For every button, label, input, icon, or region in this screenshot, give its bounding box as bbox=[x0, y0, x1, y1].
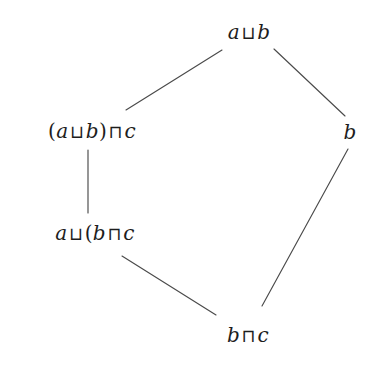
lattice-edge bbox=[126, 50, 222, 110]
node-token-var: b bbox=[343, 120, 356, 144]
node-token-var: c bbox=[257, 323, 269, 347]
node-token-paren: ( bbox=[48, 119, 56, 143]
node-token-paren: ( bbox=[85, 221, 93, 245]
node-token-var: c bbox=[124, 119, 136, 143]
lattice-node-meet-join-ab-c: (a⊔b)⊓c bbox=[48, 121, 136, 141]
lattice-node-join-ab: a⊔b bbox=[228, 22, 271, 42]
node-token-var: b bbox=[257, 20, 270, 44]
node-token-var: a bbox=[55, 221, 67, 245]
node-token-op: ⊔ bbox=[67, 223, 84, 244]
lattice-node-node-b: b bbox=[343, 122, 356, 142]
node-token-op: ⊔ bbox=[240, 22, 257, 43]
node-token-var: a bbox=[228, 20, 240, 44]
node-token-var: c bbox=[123, 221, 135, 245]
lattice-node-join-a-meet-bc: a⊔(b⊓c bbox=[55, 223, 135, 243]
node-token-op: ⊓ bbox=[240, 325, 257, 346]
node-token-var: b bbox=[93, 221, 106, 245]
lattice-edge bbox=[122, 256, 216, 315]
node-token-var: b bbox=[86, 119, 99, 143]
node-token-paren: ) bbox=[99, 119, 107, 143]
node-token-op: ⊓ bbox=[107, 121, 124, 142]
lattice-diagram: a⊔b(a⊔b)⊓cba⊔(b⊓cb⊓c bbox=[0, 0, 378, 365]
node-token-op: ⊔ bbox=[68, 121, 85, 142]
node-token-var: a bbox=[56, 119, 68, 143]
lattice-edge bbox=[274, 49, 345, 116]
node-token-op: ⊓ bbox=[106, 223, 123, 244]
lattice-node-meet-bc: b⊓c bbox=[227, 325, 269, 345]
edge-layer bbox=[0, 0, 378, 365]
lattice-edge bbox=[262, 149, 348, 306]
node-token-var: b bbox=[227, 323, 240, 347]
